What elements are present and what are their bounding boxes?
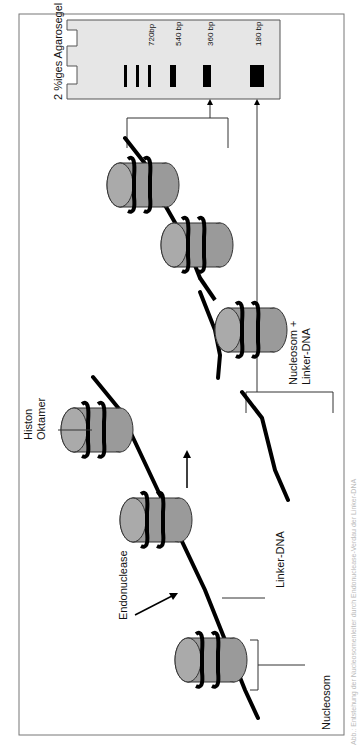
nucleosome-6 xyxy=(215,303,287,357)
nucleosome-4 xyxy=(107,158,179,212)
diagram-canvas: 2 %iges Agarosegel 720bp 540 bp 360 bp 1… xyxy=(0,0,360,751)
nucleosome-5 xyxy=(161,218,233,272)
label-linker-dna-2: Linker-DNA xyxy=(300,327,312,385)
gel-title: 2 %iges Agarosegel xyxy=(52,3,64,100)
label-histon: Histon xyxy=(22,409,34,440)
nucleosome-3 xyxy=(175,633,247,687)
figure-caption: Abb.: Entstehung der Nucleosomenleiter d… xyxy=(350,479,358,745)
gel-band-540 xyxy=(170,65,176,87)
band-label-360: 360 bp xyxy=(206,21,215,46)
gel-band-720-c xyxy=(148,65,151,87)
gel-band-720-a xyxy=(124,65,127,87)
band-label-720: 720bp xyxy=(147,23,156,46)
gel-band-180 xyxy=(250,65,264,87)
label-nucleosom: Nucleosom xyxy=(320,675,332,730)
label-endonuclease: Endonuclease xyxy=(117,550,129,620)
gel-band-360 xyxy=(203,65,211,87)
label-linker-dna: Linker-DNA xyxy=(274,530,286,588)
band-label-540: 540 bp xyxy=(174,21,183,46)
label-nucleosom-plus: Nucleosom + xyxy=(287,320,299,385)
gel-band-720-b xyxy=(136,65,139,87)
label-oktamer: Oktamer xyxy=(35,397,47,440)
nucleosome-2 xyxy=(120,493,192,547)
band-label-180: 180 bp xyxy=(254,21,263,46)
